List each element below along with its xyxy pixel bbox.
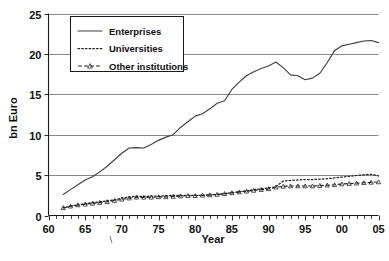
line-chart: 0510152025 60657075808590950005 bn Euro … [0,0,389,261]
x-tick-label-75: 75 [152,223,164,235]
x-tick-label-70: 70 [116,223,128,235]
x-tick-label-85: 85 [226,223,238,235]
x-tick-label-65: 65 [79,223,91,235]
x-tick-label-00: 00 [336,223,348,235]
y-tick-label-5: 5 [35,170,41,182]
x-tick-label-60: 60 [42,223,54,235]
legend-label: Enterprises [109,26,161,37]
chart-canvas: 0510152025 60657075808590950005 bn Euro … [0,0,389,261]
y-tick-label-0: 0 [35,211,41,223]
y-tick-label-25: 25 [29,9,41,21]
y-tick-label-20: 20 [29,49,41,61]
legend: EnterprisesUniversitiesOther institution… [71,17,189,72]
x-tick-label-80: 80 [189,223,201,235]
legend-label: Universities [109,43,163,54]
y-tick-label-15: 15 [29,89,41,101]
x-tick-label-95: 95 [299,223,311,235]
y-axis-title: bn Euro [7,97,19,139]
legend-label: Other institutions [109,61,188,72]
x-tick-label-05: 05 [372,223,384,235]
x-tick-label-90: 90 [262,223,274,235]
y-tick-label-10: 10 [29,130,41,142]
x-axis-title: Year [201,233,225,245]
